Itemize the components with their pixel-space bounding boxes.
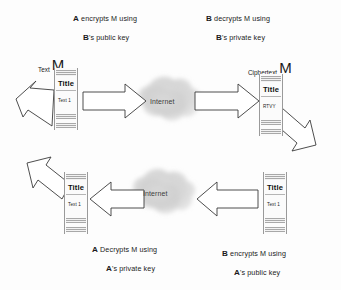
doc-title: Title (260, 85, 282, 94)
caption-tr-line1-rest: decrypts M using (212, 14, 270, 23)
doc-rule-upper (261, 96, 281, 97)
doc-title: Title (55, 79, 77, 88)
doc-title: Title (264, 183, 286, 192)
caption-bl-line1-rest: Decrypts M using (98, 245, 157, 254)
doc-rule-upper (66, 194, 86, 195)
doc-band-top (66, 174, 86, 180)
internet-cloud-top-label: Internet (150, 98, 175, 105)
doc-rule-upper (265, 194, 285, 195)
crypto-flow-diagram: A encrypts M using B's public key B decr… (0, 0, 341, 290)
doc-band-top (56, 70, 76, 76)
caption-tr-line2-rest: 's private key (222, 33, 265, 42)
doc-band-mid (56, 114, 76, 119)
doc-body: Text 1 (58, 98, 71, 103)
doc-title: Title (65, 183, 87, 192)
caption-b-encrypts: B encrypts M using A's public key (222, 250, 286, 278)
doc-rule-upper (56, 90, 76, 91)
doc-body: Text 1 (68, 202, 81, 207)
caption-a-encrypts: A encrypts M using B's public key (73, 15, 137, 43)
doc-band-bottom (66, 227, 86, 232)
caption-tl-line1-rest: encrypts M using (79, 14, 137, 23)
arrow-internet-to-ciphertext (195, 84, 259, 118)
caption-tl-line2-rest: 's public key (89, 33, 129, 42)
arrow-plaintext-to-internet (83, 84, 146, 118)
doc-band-mid (261, 120, 281, 125)
document-plaintext-reply: Title Text 1 (263, 172, 287, 234)
document-plaintext-final: Title Text 1 (64, 172, 88, 234)
doc-body: Text 1 (267, 202, 280, 207)
doc-band-top (261, 76, 281, 82)
internet-cloud-bottom-label: Internet (143, 190, 168, 197)
doc-band-bottom (265, 227, 285, 232)
plaintext-label-text: Text (38, 66, 50, 73)
doc-band-bottom (56, 123, 76, 128)
diagram-vector-layer (0, 0, 341, 290)
doc-body: RTVY (263, 104, 276, 109)
doc-band-bottom (261, 129, 281, 134)
caption-br-line1-rest: encrypts M using (228, 249, 286, 258)
caption-bl-line2-rest: 's private key (112, 264, 155, 273)
caption-b-decrypts: B decrypts M using B's private key (206, 15, 270, 43)
arrow-inbound-plaintext (16, 81, 54, 126)
caption-br-line2-rest: 's public key (240, 268, 280, 277)
doc-band-mid (265, 218, 285, 223)
arrow-reply-to-internet (197, 182, 258, 216)
document-plaintext-out: Title Text 1 (54, 68, 78, 130)
caption-a-decrypts: A Decrypts M using A's private key (92, 246, 157, 274)
doc-band-mid (66, 218, 86, 223)
doc-band-top (265, 174, 285, 180)
document-ciphertext-in: Title RTVY (259, 74, 283, 136)
